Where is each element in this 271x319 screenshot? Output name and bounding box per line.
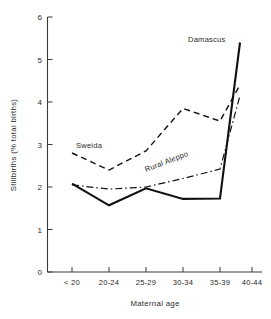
y-tick-label-3: 3 xyxy=(38,141,43,150)
x-tick-label-40-44: 40-44 xyxy=(242,278,262,287)
y-tick-label-5: 5 xyxy=(38,56,43,65)
y-tick-label-1: 1 xyxy=(38,226,43,235)
x-axis-title: Maternal age xyxy=(130,299,179,308)
x-tick-label-35-39: 35-39 xyxy=(210,278,230,287)
x-tick-label-25-29: 25-29 xyxy=(136,278,156,287)
series-label-sweida: Sweida xyxy=(76,141,103,150)
chart-canvas: 0 1 2 3 4 5 6 < 20 20-24 25-29 30-34 35-… xyxy=(0,0,271,319)
y-tick-label-0: 0 xyxy=(38,268,43,277)
x-tick-label-30-34: 30-34 xyxy=(173,278,193,287)
y-axis-ticks xyxy=(48,17,53,272)
y-tick-label-4: 4 xyxy=(38,98,43,107)
series-line-sweida xyxy=(72,85,240,170)
stillbirths-line-chart: 0 1 2 3 4 5 6 < 20 20-24 25-29 30-34 35-… xyxy=(0,0,271,319)
y-tick-label-2: 2 xyxy=(38,183,43,192)
x-axis-ticks xyxy=(72,267,252,272)
y-axis-title: Stillbirths (% total births) xyxy=(9,99,18,192)
y-tick-label-6: 6 xyxy=(38,13,43,22)
x-tick-label-20-24: 20-24 xyxy=(99,278,119,287)
series-line-damascus xyxy=(72,43,240,206)
series-label-rural-aleppo: Rural Aleppo xyxy=(143,149,189,174)
series-label-damascus: Damascus xyxy=(188,35,225,44)
x-tick-label-under-20: < 20 xyxy=(64,278,80,287)
